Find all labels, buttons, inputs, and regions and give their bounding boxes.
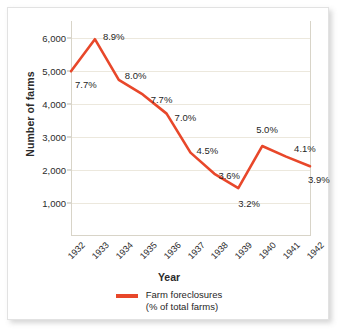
y-axis-tick-label: 6,000 xyxy=(42,32,66,43)
x-axis-tick-label: 1933 xyxy=(83,240,111,268)
x-axis-tick-label: 1941 xyxy=(274,240,302,268)
chart-legend: Farm foreclosures (% of total farms) xyxy=(8,289,330,312)
x-axis-tick-label: 1936 xyxy=(154,240,182,268)
y-axis-tick-label: 5,000 xyxy=(42,65,66,76)
x-axis-tick-label: 1937 xyxy=(178,240,206,268)
data-point-label: 8.0% xyxy=(125,70,147,81)
x-axis-title: Year xyxy=(8,271,330,283)
data-point-label: 7.0% xyxy=(175,112,197,123)
y-axis-tick-label: 3,000 xyxy=(42,131,66,142)
data-point-label: 3.2% xyxy=(238,198,260,209)
legend-swatch-farm-foreclosures xyxy=(116,294,138,298)
x-axis-tick-label: 1942 xyxy=(298,240,326,268)
x-axis-tick-label: 1939 xyxy=(226,240,254,268)
x-axis-tick-label: 1934 xyxy=(107,240,135,268)
data-point-label: 4.5% xyxy=(197,145,219,156)
data-point-label: 7.7% xyxy=(75,79,97,90)
legend-label-group: Farm foreclosures (% of total farms) xyxy=(146,289,223,312)
data-point-label: 8.9% xyxy=(103,31,125,42)
data-point-label: 5.0% xyxy=(256,124,278,135)
legend-label-line2: (% of total farms) xyxy=(146,301,223,313)
y-axis-tick-label: 2,000 xyxy=(42,164,66,175)
data-point-label: 3.6% xyxy=(218,170,240,181)
data-point-label: 3.9% xyxy=(308,174,330,185)
legend-label-line1: Farm foreclosures xyxy=(146,289,223,301)
x-axis-tick-label: 1940 xyxy=(250,240,278,268)
data-point-label: 4.1% xyxy=(294,143,316,154)
x-axis-tick-label: 1938 xyxy=(202,240,230,268)
x-axis-tick-label: 1935 xyxy=(130,240,158,268)
y-axis-tick-label: 1,000 xyxy=(42,197,66,208)
y-axis-title: Number of farms xyxy=(24,54,36,174)
chart-card: Number of farms Year 1,0002,0003,0004,00… xyxy=(7,7,329,320)
y-axis-tick-label: 4,000 xyxy=(42,98,66,109)
x-axis-tick-label: 1932 xyxy=(59,240,87,268)
data-point-label: 7.7% xyxy=(151,94,173,105)
plot-area: 1,0002,0003,0004,0005,0006,000 193219331… xyxy=(71,21,311,236)
